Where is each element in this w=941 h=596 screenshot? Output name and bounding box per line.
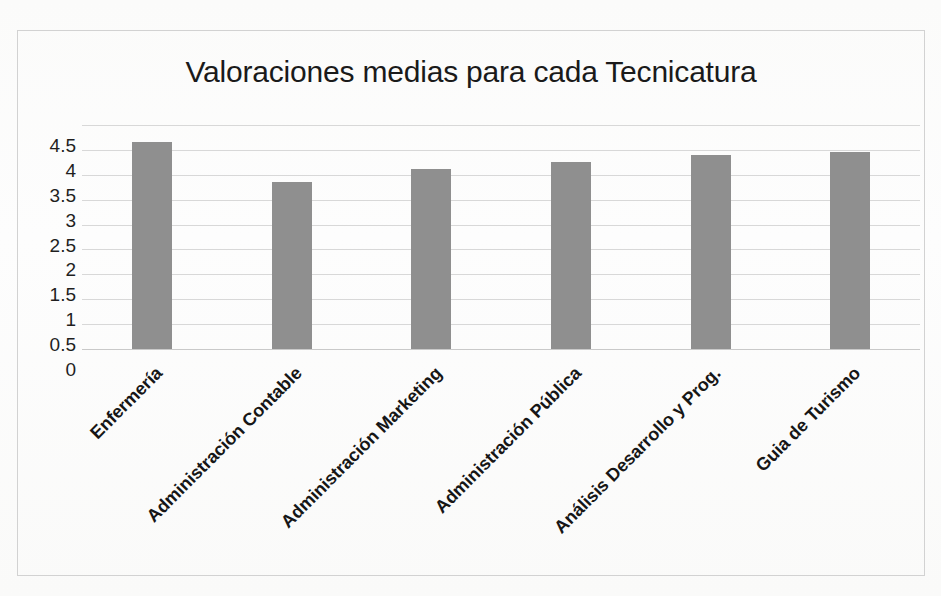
y-axis-tick-label: 0.5 xyxy=(18,335,76,354)
x-axis: EnfermeríaAdministración ContableAdminis… xyxy=(82,349,920,569)
bar-series xyxy=(82,125,920,349)
bar-slot xyxy=(641,125,781,349)
bar-slot xyxy=(361,125,501,349)
plot-area xyxy=(82,125,920,349)
y-axis-tick-label: 1 xyxy=(18,310,76,329)
bar[interactable] xyxy=(551,162,591,349)
bar-slot xyxy=(82,125,222,349)
y-axis-tick-label: 3 xyxy=(18,210,76,229)
x-axis-slot: Guia de Turismo xyxy=(780,349,920,569)
y-axis-tick-label: 2.5 xyxy=(18,235,76,254)
bar[interactable] xyxy=(830,152,870,349)
chart-frame: Valoraciones medias para cada Tecnicatur… xyxy=(17,30,925,576)
y-axis-tick-label: 2 xyxy=(18,260,76,279)
bar-slot xyxy=(780,125,920,349)
bar[interactable] xyxy=(691,155,731,349)
bar[interactable] xyxy=(411,169,451,349)
bar-slot xyxy=(222,125,362,349)
bar-slot xyxy=(501,125,641,349)
y-axis-tick-label: 4.5 xyxy=(18,136,76,155)
x-axis-tick-label: Enfermería xyxy=(86,363,167,444)
bar[interactable] xyxy=(132,142,172,349)
bar[interactable] xyxy=(272,182,312,349)
y-axis-tick-label: 1.5 xyxy=(18,285,76,304)
y-axis-tick-label: 4 xyxy=(18,160,76,179)
plot-wrapper: 4.543.532.521.510.50 EnfermeríaAdministr… xyxy=(18,31,926,577)
y-axis: 4.543.532.521.510.50 xyxy=(18,115,76,355)
y-axis-tick-label: 3.5 xyxy=(18,185,76,204)
y-axis-tick-label: 0 xyxy=(18,360,76,379)
